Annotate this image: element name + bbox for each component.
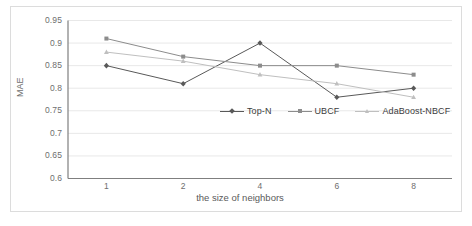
y-axis-title: MAE: [15, 85, 25, 97]
y-tick-label: 0.6: [30, 173, 62, 183]
legend-swatch-icon: [288, 107, 312, 115]
y-tick-label: 0.7: [30, 128, 62, 138]
y-tick-label: 0.95: [30, 15, 62, 25]
legend-label: UBCF: [315, 106, 340, 116]
data-point: [412, 73, 416, 77]
legend-swatch-icon: [355, 107, 379, 115]
data-point: [257, 40, 262, 46]
y-tick-label: 0.8: [30, 83, 62, 93]
data-point: [181, 55, 185, 59]
x-tick-label: 2: [168, 181, 198, 191]
data-point: [258, 64, 262, 68]
y-tick-label: 0.85: [30, 60, 62, 70]
legend-label: AdaBoost-NBCF: [382, 106, 450, 116]
x-tick-label: 6: [322, 181, 352, 191]
y-tick-label: 0.75: [30, 105, 62, 115]
legend-label: Top-N: [247, 106, 272, 116]
chart-container: 0.950.90.850.80.750.70.650.6 12468 MAE t…: [0, 0, 472, 226]
data-point: [334, 94, 339, 100]
data-point: [181, 81, 186, 87]
x-tick-label: 4: [245, 181, 275, 191]
legend-item-3[interactable]: AdaBoost-NBCF: [355, 106, 450, 116]
data-point: [104, 37, 108, 41]
data-point: [335, 64, 339, 68]
data-point: [411, 85, 416, 91]
x-tick-label: 8: [399, 181, 429, 191]
data-point: [104, 50, 109, 54]
data-point: [104, 63, 109, 69]
y-tick-label: 0.65: [30, 150, 62, 160]
legend-item-2[interactable]: UBCF: [288, 106, 340, 116]
x-axis-title: the size of neighbors: [60, 192, 420, 203]
series-markers: [104, 37, 416, 100]
x-tick-label: 1: [91, 181, 121, 191]
y-tick-label: 0.9: [30, 38, 62, 48]
legend-item-1[interactable]: Top-N: [220, 106, 272, 116]
chart-legend: Top-NUBCFAdaBoost-NBCF: [220, 106, 450, 116]
legend-swatch-icon: [220, 107, 244, 115]
